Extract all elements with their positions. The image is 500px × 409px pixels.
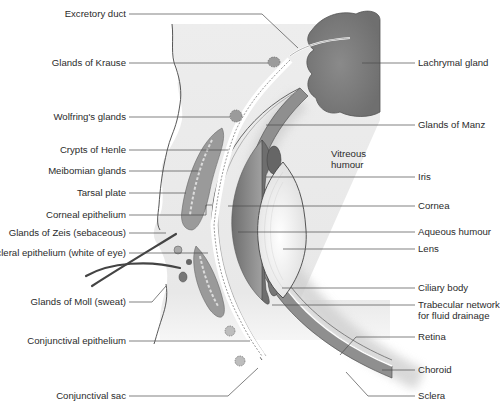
label-tarsal-plate: Tarsal plate	[77, 187, 126, 198]
label-conjunctival-epithelium: Conjunctival epithelium	[27, 335, 126, 346]
label-trabecular-network-line1: Trabecular network	[418, 299, 500, 310]
label-trabecular-network-line2: for fluid drainage	[418, 310, 489, 321]
label-corneal-epithelium: Corneal epithelium	[46, 209, 126, 220]
label-retina: Retina	[418, 331, 446, 342]
label-aqueous-humour: Aqueous humour	[418, 226, 491, 237]
label-scleral-epithelium: Scleral epithelium (white of eye)	[0, 247, 126, 258]
label-glands-of-manz: Glands of Manz	[418, 119, 485, 130]
label-vitreous-humour-line2: humour	[331, 159, 364, 170]
label-vitreous-humour-line1: Vitreous	[331, 148, 366, 159]
label-iris: Iris	[418, 171, 431, 182]
label-cornea: Cornea	[418, 200, 449, 211]
label-glands-of-zeis: Glands of Zeis (sebaceous)	[9, 227, 126, 238]
label-choroid: Choroid	[418, 364, 452, 375]
label-glands-of-krause: Glands of Krause	[52, 57, 126, 68]
label-excretory-duct: Excretory duct	[65, 8, 126, 19]
label-sclera: Sclera	[418, 390, 445, 401]
label-conjunctival-sac: Conjunctival sac	[56, 390, 126, 401]
label-crypts-of-henle: Crypts of Henle	[60, 144, 126, 155]
label-wolfrings-glands: Wolfring's glands	[53, 111, 126, 122]
label-ciliary-body: Ciliary body	[418, 282, 468, 293]
label-meibomian-glands: Meibomian glands	[48, 165, 126, 176]
label-glands-of-moll: Glands of Moll (sweat)	[31, 296, 126, 307]
label-lens: Lens	[418, 243, 439, 254]
lachrymal-gland-shape	[307, 11, 380, 116]
label-lachrymal-gland: Lachrymal gland	[418, 57, 488, 68]
